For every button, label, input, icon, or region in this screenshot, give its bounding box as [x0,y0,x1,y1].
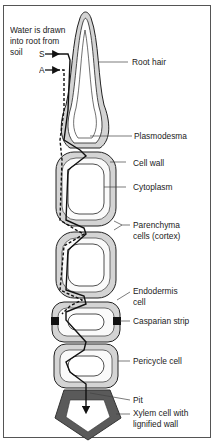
intro-text: Water is drawn into root from soil [10,24,65,57]
casparian-strip-right [113,317,121,325]
label-plasmodesma: Plasmodesma [134,130,187,141]
endodermis-cell [51,302,121,342]
label-casparian-strip: Casparian strip [133,315,189,326]
parenchyma-cell-1 [56,152,116,226]
label-endodermis: Endodermis cell [133,285,178,307]
label-pericycle: Pericycle cell [133,355,182,366]
label-parenchyma: Parenchyma cells (cortex) [133,219,180,241]
parenchyma-cell-2 [56,232,116,298]
pathway-a-label: A [39,64,45,75]
label-cytoplasm: Cytoplasm [133,181,172,192]
root-hair-cell [61,12,109,148]
label-pit: Pit [133,394,143,405]
xylem-cell [55,390,121,440]
label-cell-wall: Cell wall [133,157,164,168]
label-xylem: Xylem cell with lignified wall [133,407,188,429]
root-diagram [0,0,216,444]
pericycle-cell [54,344,118,388]
label-root-hair: Root hair [132,56,166,67]
casparian-strip-left [51,317,59,325]
pathway-s-label: S [39,48,45,59]
